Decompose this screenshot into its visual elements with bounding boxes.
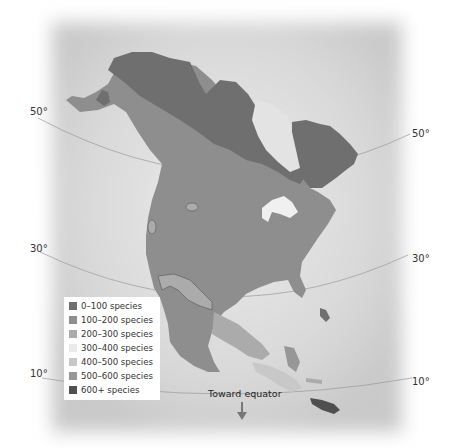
- toward-equator-label: Toward equator: [208, 388, 282, 399]
- legend-item-500-600: 500–600 species: [69, 369, 153, 382]
- region-200-300-species-west: [186, 203, 198, 211]
- species-richness-map: 50° 50° 30° 30° 10° 10° Toward equator 0…: [0, 0, 451, 448]
- legend-label: 400–500 species: [81, 357, 153, 367]
- legend-swatch: [69, 316, 77, 324]
- legend-swatch: [69, 386, 77, 394]
- latitude-label-50-right: 50°: [412, 128, 430, 139]
- legend-swatch: [69, 330, 77, 338]
- legend-swatch: [69, 344, 77, 352]
- legend-item-0-100: 0–100 species: [69, 299, 142, 312]
- legend-swatch: [69, 358, 77, 366]
- latitude-label-10-left: 10°: [30, 368, 48, 379]
- legend-label: 200–300 species: [81, 329, 153, 339]
- legend-item-400-500: 400–500 species: [69, 355, 153, 368]
- legend-swatch: [69, 302, 77, 310]
- legend-item-300-400: 300–400 species: [69, 341, 153, 354]
- region-200-300-species-sierra: [148, 220, 156, 234]
- legend-label: 500–600 species: [81, 371, 153, 381]
- legend-label: 0–100 species: [81, 301, 142, 311]
- legend: 0–100 species 100–200 species 200–300 sp…: [64, 297, 160, 400]
- legend-item-100-200: 100–200 species: [69, 313, 153, 326]
- legend-item-600-plus: 600+ species: [69, 383, 139, 396]
- legend-item-200-300: 200–300 species: [69, 327, 153, 340]
- latitude-label-30-right: 30°: [412, 253, 430, 264]
- legend-label: 100–200 species: [81, 315, 153, 325]
- latitude-label-30-left: 30°: [30, 243, 48, 254]
- legend-swatch: [69, 372, 77, 380]
- latitude-label-50-left: 50°: [30, 106, 48, 117]
- legend-label: 300–400 species: [81, 343, 153, 353]
- legend-label: 600+ species: [81, 385, 139, 395]
- latitude-label-10-right: 10°: [412, 376, 430, 387]
